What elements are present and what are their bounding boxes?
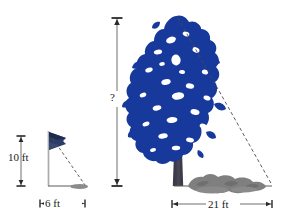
tree-shadow — [188, 174, 266, 193]
shadow-similar-triangles-diagram: 10 ft 6 ft ? 21 ft — [0, 0, 292, 223]
flagpole-shadow-length-label: 6 ft — [45, 198, 60, 209]
tree-group — [111, 15, 272, 212]
tree-height-unknown-label: ? — [110, 92, 115, 103]
flag-pennant — [49, 132, 66, 150]
flagpole-height-label: 10 ft — [8, 152, 28, 163]
pole-shadow — [71, 184, 89, 189]
diagram-canvas — [0, 0, 292, 223]
tree-shadow-length-label: 21 ft — [208, 199, 228, 210]
